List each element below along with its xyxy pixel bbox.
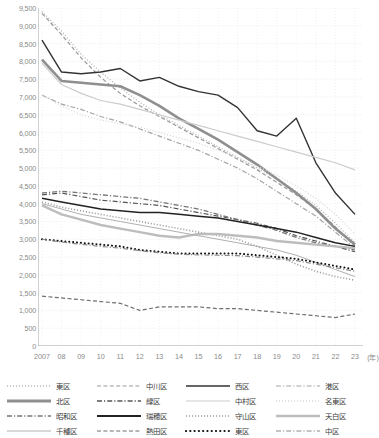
legend-swatch-icon xyxy=(185,396,231,406)
legend-swatch-icon xyxy=(275,381,321,391)
legend-item-天白区[interactable]: 天白区 xyxy=(275,408,365,423)
legend-swatch-icon xyxy=(96,381,142,391)
legend-label: 瑞穂区 xyxy=(146,410,167,421)
x-tick-label: 13 xyxy=(155,352,163,361)
legend-swatch-icon xyxy=(185,381,231,391)
legend-label: 守山区 xyxy=(235,410,256,421)
legend-item-港区[interactable]: 港区 xyxy=(275,378,365,393)
legend-label: 熱田区 xyxy=(146,425,167,436)
legend-row: 北区緑区中村区名東区 xyxy=(6,393,364,408)
x-axis: 200708091011121314151617181920212223(年) xyxy=(0,352,370,368)
y-tick-label: 1,500 xyxy=(2,288,36,297)
line-chart-svg xyxy=(38,8,363,346)
legend-swatch-icon xyxy=(275,411,321,421)
legend-item-中村区[interactable]: 中村区 xyxy=(185,393,275,408)
legend-item-瑞穂区[interactable]: 瑞穂区 xyxy=(96,408,186,423)
legend-row: 東区中川区西区港区 xyxy=(6,378,364,393)
y-tick-label: 6,500 xyxy=(2,110,36,119)
y-tick-label: 0 xyxy=(2,342,36,351)
legend-item-千種区[interactable]: 千種区 xyxy=(6,423,96,438)
axis-lines xyxy=(38,8,355,346)
legend-label: 中川区 xyxy=(146,380,167,391)
legend-item-東区[interactable]: 東区 xyxy=(6,378,96,393)
x-tick-label: 23 xyxy=(351,352,359,361)
y-axis: 05001,0001,5002,0002,5003,0003,5004,0004… xyxy=(0,0,36,354)
legend-label: 緑区 xyxy=(146,395,160,406)
x-tick-label: 15 xyxy=(195,352,203,361)
legend-item-昭和区[interactable]: 昭和区 xyxy=(6,408,96,423)
legend-item-守山区[interactable]: 守山区 xyxy=(185,408,275,423)
legend-row: 昭和区瑞穂区守山区天白区 xyxy=(6,408,364,423)
legend-label: 名東区 xyxy=(325,395,346,406)
y-tick-label: 4,000 xyxy=(2,199,36,208)
legend-swatch-icon xyxy=(6,396,52,406)
y-tick-label: 9,000 xyxy=(2,21,36,30)
y-tick-label: 8,500 xyxy=(2,39,36,48)
x-tick-label: 14 xyxy=(175,352,183,361)
legend-item-中川区[interactable]: 中川区 xyxy=(96,378,186,393)
x-axis-unit-label: (年) xyxy=(367,352,379,362)
legend-row: 千種区熱田区東区中区 xyxy=(6,423,364,438)
x-tick-label: 21 xyxy=(312,352,320,361)
legend-label: 北区 xyxy=(56,395,70,406)
y-tick-label: 500 xyxy=(2,324,36,333)
x-gridlines xyxy=(42,8,355,346)
x-tick-label: 12 xyxy=(136,352,144,361)
y-tick-label: 2,500 xyxy=(2,253,36,262)
legend-swatch-icon xyxy=(185,411,231,421)
y-tick-label: 2,000 xyxy=(2,270,36,279)
x-tick-label: 19 xyxy=(273,352,281,361)
series-line-12 xyxy=(42,204,355,277)
x-tick-label: 08 xyxy=(58,352,66,361)
x-tick-label: 11 xyxy=(117,352,124,361)
y-tick-label: 4,500 xyxy=(2,181,36,190)
legend-item-緑区[interactable]: 緑区 xyxy=(96,393,186,408)
y-tick-label: 3,000 xyxy=(2,235,36,244)
plot-area xyxy=(38,8,363,346)
legend-label: 天白区 xyxy=(325,410,346,421)
legend-label: 港区 xyxy=(325,380,339,391)
x-tick-label: 09 xyxy=(77,352,85,361)
y-tick-label: 6,000 xyxy=(2,128,36,137)
legend-swatch-icon xyxy=(6,411,52,421)
legend-swatch-icon xyxy=(275,426,321,436)
x-tick-label: 10 xyxy=(97,352,105,361)
x-tick-label: 2007 xyxy=(34,352,50,361)
legend-swatch-icon xyxy=(6,426,52,436)
legend-item-名東区[interactable]: 名東区 xyxy=(275,393,365,408)
legend-label: 昭和区 xyxy=(56,410,77,421)
legend-swatch-icon xyxy=(96,396,142,406)
x-tick-label: 20 xyxy=(292,352,300,361)
y-tick-label: 5,000 xyxy=(2,164,36,173)
y-tick-label: 9,500 xyxy=(2,4,36,13)
series-line-3 xyxy=(42,95,355,248)
legend-label: 千種区 xyxy=(56,425,77,436)
chart-legend: 東区中川区西区港区北区緑区中村区名東区昭和区瑞穂区守山区天白区千種区熱田区東区中… xyxy=(0,374,370,438)
legend-item-北区[interactable]: 北区 xyxy=(6,393,96,408)
y-tick-label: 3,500 xyxy=(2,217,36,226)
legend-label: 東区 xyxy=(235,425,249,436)
legend-label: 東区 xyxy=(56,380,70,391)
series-line-10 xyxy=(42,202,355,280)
y-tick-label: 7,500 xyxy=(2,75,36,84)
legend-item-中区[interactable]: 中区 xyxy=(275,423,365,438)
x-tick-label: 16 xyxy=(214,352,222,361)
y-tick-label: 7,000 xyxy=(2,92,36,101)
x-tick-label: 22 xyxy=(331,352,339,361)
y-tick-label: 1,000 xyxy=(2,306,36,315)
y-tick-label: 8,000 xyxy=(2,57,36,66)
legend-item-西区[interactable]: 西区 xyxy=(185,378,275,393)
x-tick-label: 18 xyxy=(253,352,261,361)
legend-item-熱田区[interactable]: 熱田区 xyxy=(96,423,186,438)
legend-swatch-icon xyxy=(275,396,321,406)
legend-item-東区[interactable]: 東区 xyxy=(185,423,275,438)
y-tick-label: 5,500 xyxy=(2,146,36,155)
legend-label: 中村区 xyxy=(235,395,256,406)
legend-swatch-icon xyxy=(96,426,142,436)
legend-label: 中区 xyxy=(325,425,339,436)
legend-swatch-icon xyxy=(6,381,52,391)
series-line-0 xyxy=(42,12,355,243)
x-tick-label: 17 xyxy=(234,352,242,361)
legend-swatch-icon xyxy=(96,411,142,421)
